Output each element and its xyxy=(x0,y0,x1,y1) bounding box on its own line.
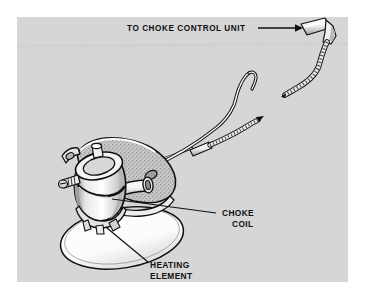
choke-coil-diagram: TO CHOKE CONTROL UNIT CHOKE COIL HEATING… xyxy=(0,0,368,300)
callout-to-choke-control-unit: TO CHOKE CONTROL UNIT xyxy=(127,24,246,33)
housing-top-stud-cap xyxy=(92,143,102,148)
callout-choke-coil-line1: CHOKE xyxy=(222,208,254,218)
callout-choke-coil-line2: COIL xyxy=(232,219,253,229)
callout-heating-element-line1: HEATING xyxy=(150,260,190,270)
housing-top-stud xyxy=(92,143,103,158)
coil-housing-lug-center xyxy=(96,225,104,234)
figure-container: TO CHOKE CONTROL UNIT CHOKE COIL HEATING… xyxy=(0,0,368,300)
callout-heating-element-line2: ELEMENT xyxy=(150,271,193,281)
